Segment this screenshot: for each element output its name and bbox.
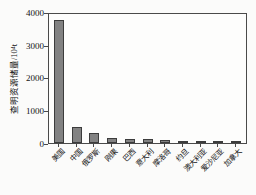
x-tick-mark [217,144,218,147]
x-tick-mark [76,144,77,147]
x-tick-label: 加拿大 [223,148,244,169]
x-tick-mark [235,144,236,147]
bar [72,127,82,143]
x-tick-label: 美国 [51,148,67,164]
bar [178,141,188,143]
y-tick-mark [44,144,48,145]
plot-area [48,13,247,144]
y-tick-label: 3000 [0,42,44,51]
x-tick-label: 刚果 [104,148,120,164]
bar [89,133,99,143]
bar [125,139,135,143]
x-tick-mark [147,144,148,147]
x-tick-mark [111,144,112,147]
bar [107,138,117,143]
y-tick-label: 0 [0,140,44,149]
x-tick-mark [164,144,165,147]
x-tick-mark [93,144,94,147]
bar [213,141,223,143]
x-tick-mark [200,144,201,147]
x-tick-label: 俄罗斯 [82,148,103,169]
y-tick-label: 1000 [0,107,44,116]
x-tick-label: 意大利 [135,148,156,169]
x-tick-label: 摩洛哥 [152,148,173,169]
x-tick-mark [182,144,183,147]
x-tick-mark [129,144,130,147]
y-tick-label: 2000 [0,74,44,83]
bar [160,140,170,143]
bar [231,141,241,143]
x-tick-mark [58,144,59,147]
bar [143,139,153,143]
y-tick-label: 4000 [0,9,44,18]
bar-chart-figure: 查明资源储量/10⁴t 01000200030004000 美国中国俄罗斯刚果巴… [0,0,256,195]
bar [196,141,206,143]
bar [54,20,64,143]
